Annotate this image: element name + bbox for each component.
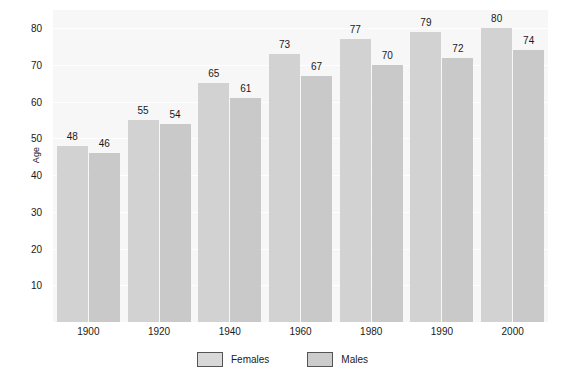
female-swatch — [197, 352, 223, 367]
y-axis-tick-label: 20 — [31, 243, 42, 254]
bar-value-label: 74 — [523, 35, 534, 46]
bar-males-1990 — [442, 58, 473, 322]
bar-value-label: 65 — [208, 68, 219, 79]
bars-layer — [53, 10, 548, 322]
bar-females-1920 — [128, 120, 159, 322]
legend-label: Females — [231, 354, 269, 365]
bar-value-label: 70 — [382, 50, 393, 61]
male-swatch — [307, 352, 333, 367]
bar-females-2000 — [481, 28, 512, 322]
bar-males-1980 — [372, 65, 403, 322]
legend-label: Males — [341, 354, 368, 365]
bar-females-1940 — [198, 83, 229, 322]
bar-males-1900 — [89, 153, 120, 322]
y-axis-tick-label: 40 — [31, 170, 42, 181]
bar-value-label: 77 — [350, 24, 361, 35]
bar-chart: Age 1020304050607080 1900192019401960198… — [0, 0, 565, 387]
plot-area — [53, 10, 548, 322]
bar-value-label: 80 — [491, 13, 502, 24]
x-axis-tick-label: 1920 — [148, 326, 170, 337]
bar-males-2000 — [513, 50, 544, 322]
bar-value-label: 46 — [99, 138, 110, 149]
bar-value-label: 55 — [138, 105, 149, 116]
bar-value-label: 67 — [311, 61, 322, 72]
y-axis-tick-label: 50 — [31, 133, 42, 144]
bar-males-1940 — [230, 98, 261, 322]
x-axis-tick-label: 1900 — [77, 326, 99, 337]
bar-males-1920 — [160, 124, 191, 322]
bar-value-label: 79 — [420, 17, 431, 28]
bar-males-1960 — [301, 76, 332, 322]
y-axis-tick-label: 60 — [31, 96, 42, 107]
bar-value-label: 61 — [240, 83, 251, 94]
x-axis-tick-label: 2000 — [502, 326, 524, 337]
bar-females-1900 — [57, 146, 88, 322]
legend-item-males[interactable]: Males — [307, 352, 368, 367]
x-axis-tick-label: 1990 — [431, 326, 453, 337]
y-axis-tick-label: 10 — [31, 280, 42, 291]
y-axis-tick-label: 80 — [31, 23, 42, 34]
bar-value-label: 54 — [170, 109, 181, 120]
bar-value-label: 72 — [452, 43, 463, 54]
legend-item-females[interactable]: Females — [197, 352, 269, 367]
legend: FemalesMales — [0, 352, 565, 367]
x-axis-tick-label: 1940 — [219, 326, 241, 337]
x-axis-tick-label: 1980 — [360, 326, 382, 337]
bar-value-label: 73 — [279, 39, 290, 50]
y-axis-tick-labels: 1020304050607080 — [0, 0, 48, 387]
bar-females-1960 — [269, 54, 300, 322]
bar-value-label: 48 — [67, 131, 78, 142]
x-axis-tick-label: 1960 — [289, 326, 311, 337]
y-axis-tick-label: 70 — [31, 60, 42, 71]
y-axis-tick-label: 30 — [31, 206, 42, 217]
bar-females-1990 — [410, 32, 441, 322]
x-axis-tick-labels: 1900192019401960198019902000 — [53, 326, 548, 342]
bar-females-1980 — [340, 39, 371, 322]
